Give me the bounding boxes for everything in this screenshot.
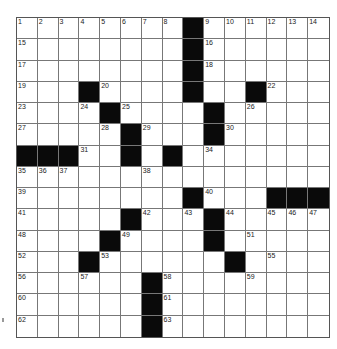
grid-cell[interactable]: 45 <box>267 209 288 230</box>
grid-cell[interactable] <box>287 61 308 82</box>
grid-cell[interactable] <box>183 103 204 124</box>
grid-cell[interactable]: 51 <box>246 231 267 252</box>
grid-cell[interactable] <box>267 294 288 315</box>
grid-cell[interactable]: 27 <box>17 124 38 145</box>
grid-cell[interactable]: 4 <box>79 18 100 39</box>
grid-cell[interactable] <box>246 294 267 315</box>
grid-cell[interactable]: 8 <box>163 18 184 39</box>
grid-cell[interactable] <box>183 294 204 315</box>
grid-cell[interactable] <box>225 82 246 103</box>
grid-cell[interactable] <box>163 167 184 188</box>
grid-cell[interactable] <box>100 167 121 188</box>
grid-cell[interactable]: 40 <box>204 188 225 209</box>
grid-cell[interactable] <box>204 252 225 273</box>
grid-cell[interactable] <box>267 167 288 188</box>
grid-cell[interactable]: 35 <box>17 167 38 188</box>
grid-cell[interactable] <box>38 124 59 145</box>
grid-cell[interactable] <box>38 209 59 230</box>
grid-cell[interactable] <box>79 231 100 252</box>
grid-cell[interactable] <box>183 124 204 145</box>
grid-cell[interactable] <box>225 61 246 82</box>
grid-cell[interactable] <box>59 231 80 252</box>
grid-cell[interactable] <box>59 316 80 337</box>
grid-cell[interactable] <box>142 61 163 82</box>
grid-cell[interactable] <box>79 316 100 337</box>
grid-cell[interactable]: 22 <box>267 82 288 103</box>
grid-cell[interactable]: 55 <box>267 252 288 273</box>
grid-cell[interactable] <box>267 39 288 60</box>
grid-cell[interactable]: 30 <box>225 124 246 145</box>
grid-cell[interactable] <box>121 188 142 209</box>
grid-cell[interactable] <box>38 273 59 294</box>
grid-cell[interactable]: 60 <box>17 294 38 315</box>
grid-cell[interactable] <box>183 231 204 252</box>
grid-cell[interactable] <box>100 294 121 315</box>
grid-cell[interactable] <box>246 124 267 145</box>
grid-cell[interactable]: 57 <box>79 273 100 294</box>
grid-cell[interactable] <box>38 252 59 273</box>
grid-cell[interactable] <box>79 39 100 60</box>
grid-cell[interactable] <box>100 316 121 337</box>
grid-cell[interactable] <box>308 39 329 60</box>
grid-cell[interactable] <box>287 146 308 167</box>
grid-cell[interactable] <box>121 39 142 60</box>
grid-cell[interactable] <box>308 252 329 273</box>
grid-cell[interactable]: 49 <box>121 231 142 252</box>
grid-cell[interactable] <box>183 167 204 188</box>
grid-cell[interactable] <box>142 252 163 273</box>
grid-cell[interactable] <box>225 231 246 252</box>
grid-cell[interactable] <box>225 103 246 124</box>
grid-cell[interactable] <box>59 103 80 124</box>
grid-cell[interactable] <box>287 252 308 273</box>
grid-cell[interactable] <box>267 146 288 167</box>
grid-cell[interactable] <box>287 82 308 103</box>
grid-cell[interactable] <box>204 82 225 103</box>
grid-cell[interactable] <box>142 146 163 167</box>
grid-cell[interactable]: 23 <box>17 103 38 124</box>
grid-cell[interactable] <box>204 316 225 337</box>
grid-cell[interactable] <box>38 316 59 337</box>
grid-cell[interactable] <box>267 61 288 82</box>
grid-cell[interactable] <box>246 61 267 82</box>
grid-cell[interactable]: 25 <box>121 103 142 124</box>
grid-cell[interactable] <box>38 103 59 124</box>
grid-cell[interactable]: 14 <box>308 18 329 39</box>
grid-cell[interactable] <box>163 82 184 103</box>
grid-cell[interactable]: 31 <box>79 146 100 167</box>
grid-cell[interactable] <box>59 273 80 294</box>
grid-cell[interactable] <box>142 188 163 209</box>
grid-cell[interactable] <box>183 316 204 337</box>
grid-cell[interactable] <box>246 252 267 273</box>
grid-cell[interactable] <box>287 316 308 337</box>
grid-cell[interactable] <box>308 231 329 252</box>
grid-cell[interactable] <box>142 231 163 252</box>
grid-cell[interactable] <box>246 209 267 230</box>
grid-cell[interactable] <box>100 146 121 167</box>
grid-cell[interactable] <box>204 273 225 294</box>
grid-cell[interactable]: 56 <box>17 273 38 294</box>
grid-cell[interactable] <box>79 209 100 230</box>
grid-cell[interactable] <box>121 316 142 337</box>
grid-cell[interactable] <box>163 188 184 209</box>
grid-cell[interactable] <box>163 209 184 230</box>
grid-cell[interactable]: 42 <box>142 209 163 230</box>
grid-cell[interactable] <box>121 82 142 103</box>
grid-cell[interactable] <box>38 231 59 252</box>
grid-cell[interactable] <box>308 146 329 167</box>
grid-cell[interactable]: 12 <box>267 18 288 39</box>
grid-cell[interactable] <box>183 273 204 294</box>
grid-cell[interactable]: 37 <box>59 167 80 188</box>
grid-cell[interactable] <box>59 124 80 145</box>
grid-cell[interactable] <box>308 167 329 188</box>
grid-cell[interactable] <box>225 273 246 294</box>
grid-cell[interactable] <box>59 39 80 60</box>
grid-cell[interactable] <box>38 294 59 315</box>
grid-cell[interactable] <box>79 167 100 188</box>
grid-cell[interactable]: 13 <box>287 18 308 39</box>
grid-cell[interactable] <box>204 294 225 315</box>
grid-cell[interactable] <box>59 209 80 230</box>
grid-cell[interactable] <box>225 188 246 209</box>
grid-cell[interactable] <box>246 316 267 337</box>
grid-cell[interactable]: 3 <box>59 18 80 39</box>
grid-cell[interactable]: 15 <box>17 39 38 60</box>
